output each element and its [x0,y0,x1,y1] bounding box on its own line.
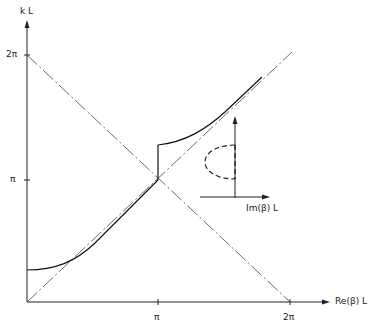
y-tick-pi: π [10,174,15,184]
y-tick-2pi: 2π [6,49,17,59]
y-axis-arrow-icon [25,20,30,28]
stopband-imag-curve [205,145,235,179]
inset-right-arrow-icon [262,195,270,200]
inset-axis-label: Im(β) L [246,203,278,213]
x-axis-arrow-icon [322,300,330,305]
light-line-rising [27,52,292,302]
y-axis-label: k L [20,6,33,16]
dispersion-diagram [0,0,378,332]
upper-band-curve [158,77,262,145]
x-tick-2pi: 2π [283,312,294,322]
inset-up-arrow-icon [233,116,238,124]
x-axis-label: Re(β) L [335,296,367,306]
lower-band-curve [27,180,158,270]
x-tick-pi: π [154,312,159,322]
